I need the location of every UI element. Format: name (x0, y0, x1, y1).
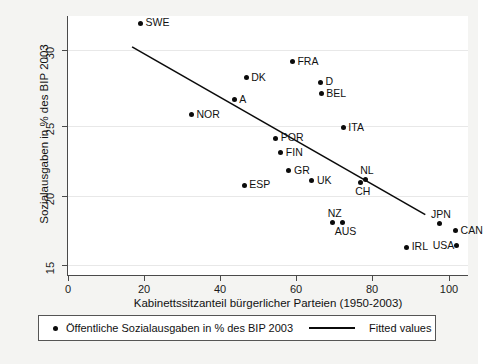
x-tick-label-40: 40 (200, 283, 240, 295)
data-point-usa (454, 243, 459, 248)
gridline-20 (68, 196, 468, 197)
chart-legend: Öffentliche Sozialausgaben in % des BIP … (38, 315, 436, 341)
data-point-label-nz: NZ (328, 208, 342, 219)
data-point-label-nl: NL (360, 165, 373, 176)
data-point-label-nor: NOR (196, 109, 219, 120)
gridline-25 (68, 126, 468, 127)
data-point-label-esp: ESP (249, 179, 270, 190)
data-point-label-uk: UK (317, 175, 332, 186)
y-axis-line (67, 16, 68, 276)
legend-label-observations: Öffentliche Sozialausgaben in % des BIP … (66, 322, 293, 334)
data-point-label-swe: SWE (146, 17, 170, 28)
data-point-d (318, 80, 323, 85)
data-point-label-por: POR (281, 132, 304, 143)
x-tick-label-0: 0 (48, 283, 88, 295)
plot-area (68, 16, 468, 275)
data-point-label-usa: USA (433, 240, 455, 251)
data-point-irl (404, 245, 409, 250)
x-tick-mark-20 (144, 276, 145, 281)
x-tick-mark-100 (449, 276, 450, 281)
y-tick-mark-30 (62, 50, 67, 51)
x-tick-mark-80 (372, 276, 373, 281)
data-point-label-fra: FRA (297, 56, 318, 67)
data-point-label-ch: CH (355, 186, 370, 197)
data-point-label-aus: AUS (335, 226, 357, 237)
data-point-label-ita: ITA (348, 122, 364, 133)
data-point-label-gr: GR (294, 165, 310, 176)
data-point-label-can: CAN (461, 225, 483, 236)
x-tick-label-100: 100 (429, 283, 469, 295)
data-point-por (273, 136, 278, 141)
data-point-label-fin: FIN (286, 147, 303, 158)
x-tick-label-80: 80 (352, 283, 392, 295)
data-point-label-dk: DK (251, 72, 266, 83)
x-tick-mark-0 (68, 276, 69, 281)
y-axis-title: Sozialausgaben in % des BIP 2003 (38, 24, 50, 244)
data-point-label-bel: BEL (326, 88, 346, 99)
gridline-30 (68, 50, 468, 51)
y-tick-mark-20 (62, 196, 67, 197)
gridline-15 (68, 265, 468, 266)
legend-line-icon (309, 327, 355, 329)
data-point-swe (138, 21, 143, 26)
x-axis-title: Kabinettssitzanteil bürgerlicher Parteie… (68, 297, 468, 309)
data-point-label-d: D (325, 76, 333, 87)
legend-label-fitted: Fitted values (369, 322, 431, 334)
x-axis-line (67, 275, 468, 276)
legend-dot-icon (53, 326, 58, 331)
x-tick-label-20: 20 (124, 283, 164, 295)
data-point-ch (358, 180, 363, 185)
data-point-nl (363, 177, 368, 182)
data-point-jpn (437, 221, 442, 226)
x-tick-label-60: 60 (276, 283, 316, 295)
y-tick-mark-25 (62, 126, 67, 127)
data-point-label-irl: IRL (412, 241, 428, 252)
y-tick-label-15: 15 (40, 258, 60, 272)
y-tick-mark-15 (62, 265, 67, 266)
data-point-label-jpn: JPN (431, 209, 451, 220)
data-point-esp (242, 183, 247, 188)
data-point-nz (330, 220, 335, 225)
data-point-label-a: A (239, 94, 246, 105)
x-tick-mark-60 (296, 276, 297, 281)
x-tick-mark-40 (220, 276, 221, 281)
